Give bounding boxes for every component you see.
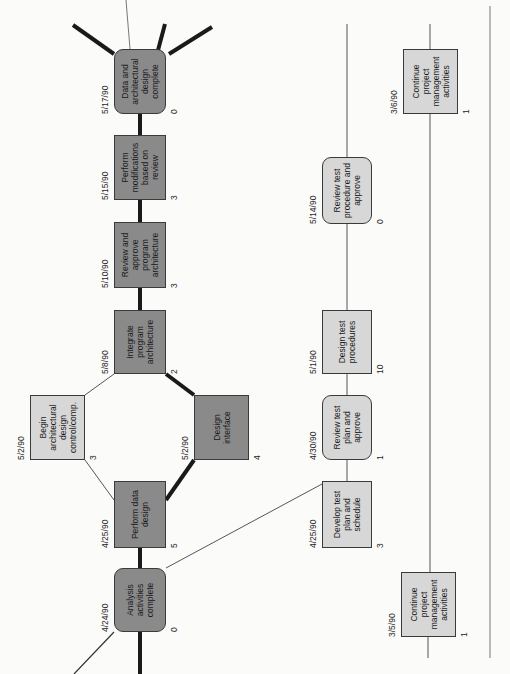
node-duration: 3 bbox=[88, 455, 98, 460]
node-data-architectural-complete[interactable]: Data and architectural design complete bbox=[114, 49, 166, 114]
node-project-management-2[interactable]: Continue project management activities bbox=[403, 49, 458, 114]
edge-analysis-testplan bbox=[166, 484, 322, 568]
node-duration: 1 bbox=[375, 455, 385, 460]
node-duration: 0 bbox=[375, 219, 385, 224]
node-review-test-plan[interactable]: Review test plan and approve bbox=[322, 395, 372, 460]
node-develop-test-plan[interactable]: Develop test plan and schedule bbox=[322, 481, 372, 548]
node-duration: 0 bbox=[169, 627, 179, 632]
edge-datadesign-beginarch bbox=[85, 460, 114, 500]
node-label: Design interface bbox=[212, 398, 232, 457]
node-duration: 0 bbox=[169, 109, 179, 114]
node-date: 4/25/90 bbox=[308, 520, 318, 548]
node-date: 4/25/90 bbox=[100, 520, 110, 548]
node-design-interface[interactable]: Design interface bbox=[194, 395, 249, 460]
node-date: 5/8/90 bbox=[100, 350, 110, 374]
diagram-page: Analysis activities complete 4/24/90 0 P… bbox=[0, 0, 510, 674]
edge-datadesign-interface bbox=[166, 460, 194, 500]
node-date: 5/14/90 bbox=[308, 196, 318, 224]
network-diagram: Analysis activities complete 4/24/90 0 P… bbox=[0, 0, 510, 674]
node-design-test-procedures[interactable]: Design test procedures bbox=[322, 310, 372, 374]
node-label: Design test procedures bbox=[337, 313, 357, 371]
node-begin-architectural-design[interactable]: Begin architectural design control/comp. bbox=[30, 395, 85, 460]
edge-out-2 bbox=[126, 0, 130, 49]
edge-out-4 bbox=[169, 27, 212, 54]
node-review-approve-architecture[interactable]: Review and approve program architecture bbox=[114, 222, 166, 288]
node-duration: 2 bbox=[169, 369, 179, 374]
node-date: 4/30/90 bbox=[308, 432, 318, 460]
node-date: 3/6/90 bbox=[389, 90, 399, 114]
node-label: Begin architectural design control/comp. bbox=[38, 398, 78, 457]
node-duration: 5 bbox=[169, 543, 179, 548]
node-project-management-1[interactable]: Continue project management activities bbox=[401, 572, 456, 637]
node-label: Continue project management activities bbox=[411, 52, 451, 111]
edge-incoming-thin bbox=[74, 632, 114, 674]
node-perform-data-design[interactable]: Perform data design bbox=[114, 481, 166, 548]
node-duration: 10 bbox=[375, 365, 385, 374]
node-date: 5/1/90 bbox=[308, 350, 318, 374]
node-label: Review test procedure and approve bbox=[332, 160, 362, 221]
edge-out-1 bbox=[73, 25, 114, 54]
node-analysis-complete[interactable]: Analysis activities complete bbox=[114, 568, 166, 632]
node-duration: 3 bbox=[169, 283, 179, 288]
node-duration: 3 bbox=[169, 195, 179, 200]
node-label: Continue project management activities bbox=[409, 575, 449, 634]
node-date: 5/15/90 bbox=[100, 172, 110, 200]
node-duration: 1 bbox=[461, 109, 471, 114]
node-integrate-program-architecture[interactable]: Integrate program architecture bbox=[114, 310, 166, 374]
node-label: Data and architectural design complete bbox=[120, 52, 160, 111]
node-perform-modifications[interactable]: Perform modifications based on review bbox=[114, 135, 166, 200]
node-label: Analysis activities complete bbox=[125, 571, 155, 629]
node-label: Develop test plan and schedule bbox=[332, 484, 362, 545]
edge-beginarch-integrate bbox=[85, 374, 114, 395]
node-date: 3/5/90 bbox=[387, 613, 397, 637]
node-label: Review and approve program architecture bbox=[120, 225, 160, 285]
node-duration: 3 bbox=[375, 543, 385, 548]
node-date: 5/10/90 bbox=[100, 260, 110, 288]
node-date: 4/24/90 bbox=[100, 604, 110, 632]
node-label: Perform modifications based on review bbox=[120, 138, 160, 197]
node-label: Perform data design bbox=[130, 484, 150, 545]
node-date: 5/2/90 bbox=[16, 436, 26, 460]
node-label: Integrate program architecture bbox=[125, 313, 155, 371]
node-date: 5/17/90 bbox=[100, 86, 110, 114]
edge-interface-integrate bbox=[166, 374, 194, 395]
node-label: Review test plan and approve bbox=[332, 398, 362, 457]
node-review-test-procedure[interactable]: Review test procedure and approve bbox=[322, 157, 372, 224]
node-date: 5/2/90 bbox=[180, 436, 190, 460]
node-duration: 1 bbox=[459, 632, 469, 637]
node-duration: 4 bbox=[252, 455, 262, 460]
